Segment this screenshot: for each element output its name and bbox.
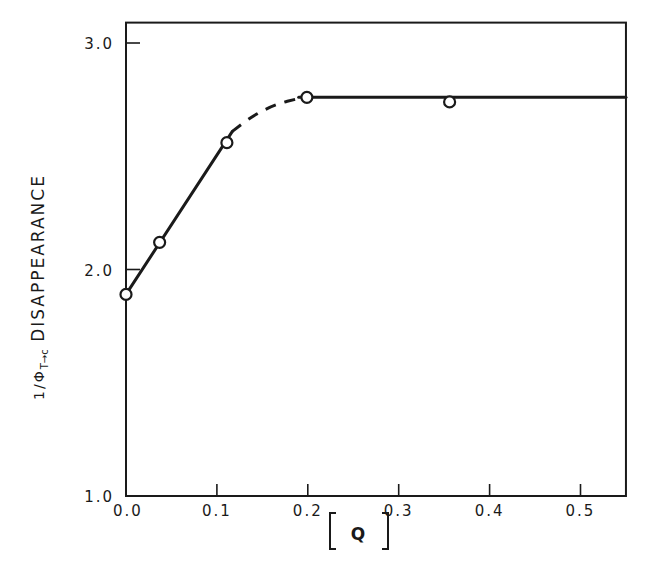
data-point-open-circle <box>301 92 312 103</box>
y-tick-labels: 1.02.03.0 <box>84 35 114 506</box>
left-bracket <box>330 513 336 549</box>
x-tick-label: 0.2 <box>293 502 323 520</box>
data-point-open-circle <box>154 237 165 248</box>
fit-lines <box>126 97 626 294</box>
x-axis-variable: Q <box>351 524 367 544</box>
axis-ticks <box>126 43 581 496</box>
x-tick-labels: 0.00.10.20.30.40.5 <box>113 502 595 520</box>
y-tick-label: 1.0 <box>84 488 114 506</box>
y-tick-label: 2.0 <box>84 262 114 280</box>
x-tick-label: 0.4 <box>475 502 505 520</box>
dashed-fit-curve <box>232 98 298 131</box>
y-axis-title: 1/ΦT→c DISAPPEARANCE <box>28 174 50 400</box>
chart: 0.00.10.20.30.40.5 1.02.03.0 Q 1/ΦT→c DI… <box>0 0 647 580</box>
data-point-open-circle <box>221 137 232 148</box>
solid-fit-line <box>126 131 232 294</box>
x-tick-label: 0.5 <box>566 502 596 520</box>
data-points <box>121 92 456 300</box>
plot-border <box>126 23 626 496</box>
x-tick-label: 0.1 <box>202 502 232 520</box>
data-point-open-circle <box>121 289 132 300</box>
y-tick-label: 3.0 <box>84 35 114 53</box>
x-axis-title: Q <box>330 513 388 549</box>
x-tick-label: 0.0 <box>113 502 143 520</box>
y-axis-title-text: 1/ΦT→c DISAPPEARANCE <box>28 174 50 400</box>
y-axis-title-group: 1/ΦT→c DISAPPEARANCE <box>28 174 50 400</box>
data-point-open-circle <box>444 96 455 107</box>
plot-frame <box>126 23 626 496</box>
